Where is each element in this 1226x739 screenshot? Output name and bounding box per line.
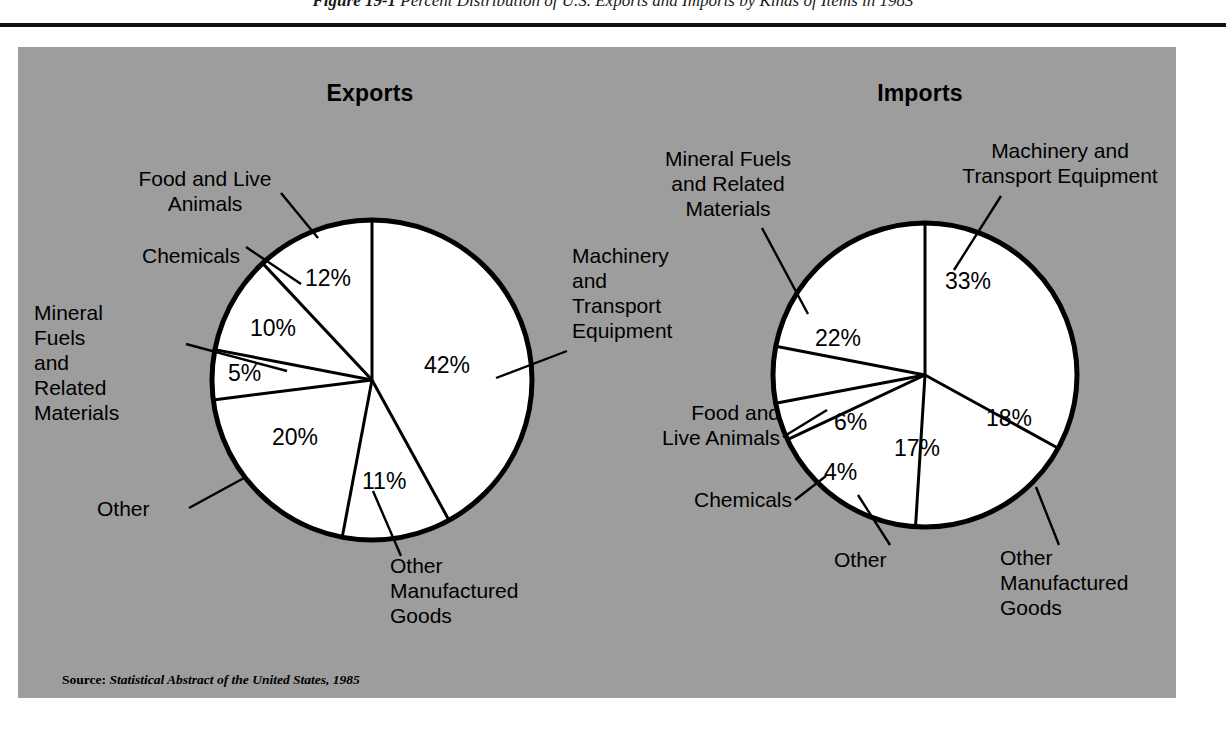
exports-label-other-manufactured: Other Manufactured Goods — [390, 553, 590, 628]
imports-pct-other: 17% — [894, 435, 940, 462]
imports-label-machinery: Machinery and Transport Equipment — [925, 138, 1195, 188]
exports-label-chemicals: Chemicals — [50, 243, 240, 268]
exports-heading: Exports — [230, 80, 510, 107]
source-text: Statistical Abstract of the United State… — [109, 672, 359, 687]
exports-pct-machinery: 42% — [424, 352, 470, 379]
imports-label-chemicals: Chemicals — [620, 487, 792, 512]
imports-pct-mineral-fuels: 22% — [815, 325, 861, 352]
imports-pct-food: 6% — [834, 409, 867, 436]
imports-pct-chemicals: 4% — [824, 459, 857, 486]
imports-heading: Imports — [780, 80, 1060, 107]
imports-label-other: Other — [834, 547, 954, 572]
figure-caption-clip: Figure 19-1 Percent Distribution of U.S.… — [0, 0, 1226, 13]
imports-pct-other-manufactured: 18% — [986, 405, 1032, 432]
figure-root: Figure 19-1 Percent Distribution of U.S.… — [0, 0, 1226, 739]
exports-pct-other: 20% — [272, 424, 318, 451]
exports-label-mineral-fuels: Mineral Fuels and Related Materials — [34, 300, 184, 425]
exports-pct-food: 12% — [305, 265, 351, 292]
figure-caption-title: Percent Distribution of U.S. Exports and… — [400, 0, 913, 10]
figure-caption-number: Figure 19-1 — [313, 0, 397, 10]
imports-label-mineral-fuels: Mineral Fuels and Related Materials — [628, 146, 828, 221]
exports-label-machinery: Machinery and Transport Equipment — [572, 243, 752, 343]
imports-label-food: Food and Live Animals — [600, 400, 780, 450]
imports-pct-machinery: 33% — [945, 268, 991, 295]
exports-pct-mineral-fuels: 5% — [228, 360, 261, 387]
figure-caption: Figure 19-1 Percent Distribution of U.S.… — [0, 0, 1226, 11]
imports-label-other-manufactured: Other Manufactured Goods — [1000, 545, 1200, 620]
exports-label-other: Other — [97, 496, 217, 521]
source-note: Source: Statistical Abstract of the Unit… — [62, 672, 360, 688]
caption-divider-rule — [0, 23, 1226, 27]
exports-label-food: Food and Live Animals — [120, 166, 290, 216]
exports-pct-chemicals: 10% — [250, 315, 296, 342]
exports-pct-other-manufactured: 11% — [362, 468, 406, 495]
source-label: Source: — [62, 672, 106, 687]
